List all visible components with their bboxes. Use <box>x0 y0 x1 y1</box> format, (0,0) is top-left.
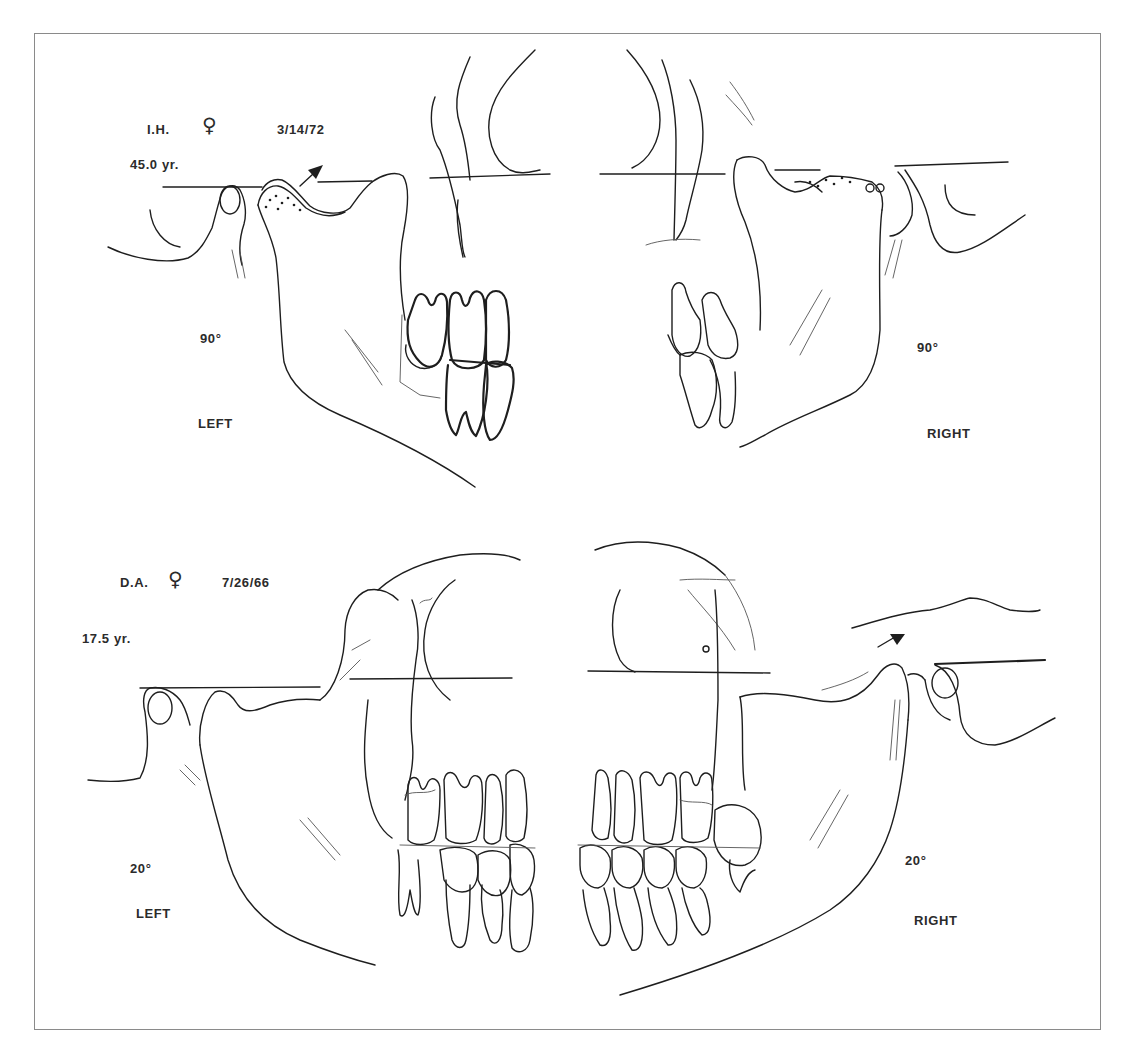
ear-canal <box>932 668 958 698</box>
bottom-left-mandible-tracing <box>88 554 535 965</box>
top-right-mandible-tracing <box>600 50 1025 447</box>
angle-bottom-right: 20° <box>905 853 926 868</box>
ear-canal <box>220 186 240 214</box>
bottom-right-mandible-tracing <box>578 542 1055 995</box>
ear-canal <box>148 692 172 724</box>
mandible-posterior-border <box>620 720 908 995</box>
temporal-outline <box>905 170 1025 253</box>
maxilla-outline <box>405 600 418 800</box>
coronoid-process <box>734 160 761 330</box>
angle-bottom-left: 20° <box>130 861 151 876</box>
patient-id-bottom: D.A. <box>120 575 148 590</box>
side-label-bottom-right: RIGHT <box>914 913 957 928</box>
arrow-icon <box>890 634 905 645</box>
top-left-mandible-tracing <box>108 50 550 487</box>
skull-base-contour <box>852 598 1040 628</box>
exam-date-top: 3/14/72 <box>277 122 325 137</box>
side-label-top-left: LEFT <box>198 416 233 431</box>
bottom-right-teeth <box>578 770 761 950</box>
reference-line <box>318 181 372 182</box>
mandible-posterior-border <box>200 745 375 965</box>
top-left-teeth <box>406 291 514 440</box>
reference-line <box>935 660 1045 664</box>
temporal-outline <box>108 186 245 265</box>
coronoid-process <box>372 174 408 320</box>
coronoid-process <box>740 697 745 790</box>
angle-top-right: 90° <box>917 340 938 355</box>
angle-top-left: 90° <box>200 331 221 346</box>
arrow-shaft <box>878 637 895 647</box>
temporal-curve <box>150 210 180 247</box>
female-symbol-top: ♀ <box>202 113 217 137</box>
patient-id-top: I.H. <box>147 122 170 137</box>
side-label-top-right: RIGHT <box>927 426 970 441</box>
reference-line <box>588 671 770 673</box>
bottom-left-teeth <box>398 770 535 952</box>
patient-age-top: 45.0 yr. <box>130 157 179 172</box>
temporal-outline <box>88 688 190 782</box>
reference-line <box>895 162 1008 166</box>
arrow-shaft <box>300 174 313 186</box>
temporal-outline <box>935 665 1055 745</box>
exam-date-bottom: 7/26/66 <box>222 575 270 590</box>
ear-canal <box>890 172 912 236</box>
top-right-teeth <box>668 283 738 428</box>
side-label-bottom-left: LEFT <box>136 906 171 921</box>
mandible-posterior-border <box>258 205 475 487</box>
patient-age-bottom: 17.5 yr. <box>82 631 131 646</box>
coronoid-process <box>320 589 398 700</box>
mandible-posterior-border <box>740 210 882 447</box>
reference-line <box>140 687 320 688</box>
female-symbol-bottom: ♀ <box>168 567 183 591</box>
condyle-outline <box>200 691 320 745</box>
